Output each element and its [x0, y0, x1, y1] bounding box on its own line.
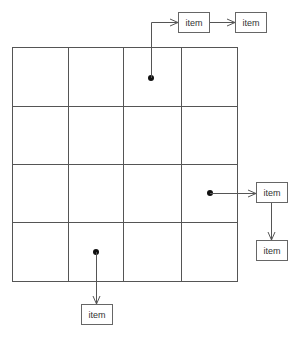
link-cell-to-top-item	[148, 19, 178, 81]
item-label: item	[242, 18, 259, 28]
item-box-bottom-1[interactable]: item	[82, 305, 113, 325]
item-label: item	[263, 246, 280, 256]
item-label: item	[88, 310, 105, 320]
link-cell-to-bottom-item	[93, 249, 100, 304]
item-box-top-1[interactable]: item	[179, 13, 210, 33]
item-box-right-2[interactable]: item	[257, 241, 288, 261]
item-box-top-2[interactable]: item	[236, 13, 267, 33]
link-cell-to-right-item	[207, 190, 256, 197]
link-right-item-to-right-item	[268, 202, 275, 240]
item-label: item	[185, 18, 202, 28]
item-label: item	[263, 188, 280, 198]
link-top-item-to-top-item	[210, 19, 235, 26]
item-box-right-1[interactable]: item	[257, 183, 288, 203]
grid	[13, 48, 238, 282]
diagram-canvas: item item item item item	[0, 0, 300, 341]
